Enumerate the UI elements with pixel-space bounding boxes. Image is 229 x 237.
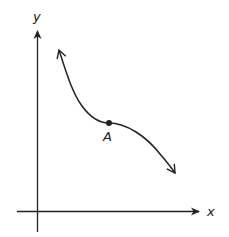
point-a-label: A (102, 129, 112, 144)
x-axis-label: x (206, 204, 215, 219)
function-graph: y x A (0, 0, 229, 237)
function-curve (59, 50, 175, 173)
y-axis-label: y (32, 9, 41, 24)
point-a-dot (106, 120, 112, 126)
